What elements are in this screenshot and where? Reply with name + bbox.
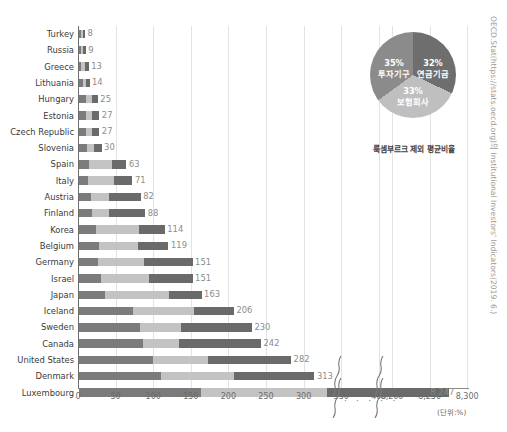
bar-segment: [83, 46, 85, 54]
bar-value-label: 63: [129, 160, 140, 169]
x-axis-tick-label: 200: [221, 392, 236, 401]
bar-segment: [83, 30, 85, 38]
bar-segment: [161, 372, 233, 380]
bar-value-label: 27: [102, 111, 113, 120]
stacked-bar: [79, 193, 141, 201]
bar-segment: [99, 242, 138, 250]
bar-value-label: 25: [100, 95, 111, 104]
stacked-bar: [79, 225, 165, 233]
bar-row: Canada242: [0, 336, 507, 352]
bar-value-label: 27: [102, 127, 113, 136]
pie-slice-pct-2: 32%: [407, 58, 459, 69]
category-label: Korea: [0, 222, 74, 238]
bar-value-label: 13: [91, 62, 102, 71]
x-axis-tick-label: 0: [75, 392, 80, 401]
x-axis-tick-label: 100: [146, 392, 161, 401]
bar-segment: [79, 209, 92, 217]
bar-segment: [79, 356, 153, 364]
bar-segment: [79, 176, 88, 184]
bar-row: Japan163: [0, 287, 507, 303]
pie-slice-name-1: 보험회사: [387, 97, 439, 108]
x-axis-tick-label: 300: [296, 392, 311, 401]
category-label: Slovenia: [0, 140, 74, 156]
bar-segment: [79, 291, 105, 299]
bar-segment: [92, 111, 99, 119]
bar-segment: [92, 209, 109, 217]
unit-label: (단위:%): [437, 406, 466, 417]
category-label: Lithuania: [0, 75, 74, 91]
category-label: Luxembourg: [0, 385, 74, 401]
bar-row: Denmark313: [0, 368, 507, 384]
bar-segment: [140, 323, 182, 331]
bar-value-label: 82: [143, 192, 154, 201]
stacked-bar: [79, 95, 98, 103]
bar-segment: [79, 274, 101, 282]
stacked-bar: [79, 339, 261, 347]
bar-segment: [98, 258, 143, 266]
bar-segment: [79, 372, 161, 380]
bar-segment: [96, 225, 139, 233]
bar-segment: [79, 193, 91, 201]
bar-value-label: 30: [104, 143, 115, 152]
bar-segment: [85, 62, 89, 70]
bar-segment: [149, 274, 192, 282]
axis-break-marker-left-lower: [330, 378, 346, 412]
bar-row: Israel151: [0, 271, 507, 287]
bar-segment: [143, 339, 179, 347]
bar-segment: [234, 372, 315, 380]
bar-row: Korea114: [0, 222, 507, 238]
pie-slice-name-2: 연금기금: [407, 69, 459, 80]
bar-value-label: 230: [254, 323, 270, 332]
x-axis-tick-label: 250: [258, 392, 273, 401]
bar-segment: [169, 291, 201, 299]
x-axis-tick-label: 8,300: [456, 392, 479, 401]
bar-row: Spain63: [0, 156, 507, 172]
stacked-bar: [79, 209, 145, 217]
stacked-bar: [79, 111, 99, 119]
category-label: Sweden: [0, 319, 74, 335]
bar-value-label: 151: [195, 274, 211, 283]
bar-value-label: 119: [171, 241, 187, 250]
bar-segment: [79, 307, 133, 315]
category-label: Spain: [0, 156, 74, 172]
bar-segment: [79, 323, 140, 331]
category-label: Japan: [0, 287, 74, 303]
bar-segment: [79, 242, 99, 250]
stacked-bar: [79, 160, 126, 168]
bar-segment: [79, 160, 89, 168]
pie-slice-label-1: 33% 보험회사: [387, 86, 439, 107]
bar-segment: [144, 258, 193, 266]
stacked-bar: [79, 323, 252, 331]
stacked-bar: [79, 128, 99, 136]
bar-segment: [79, 111, 86, 119]
bar-row: United States282: [0, 352, 507, 368]
bar-value-label: 242: [263, 339, 279, 348]
stacked-bar: [79, 274, 193, 282]
bar-row: Austria82: [0, 189, 507, 205]
pie-chart-inset: 35% 투자기구 32% 연금기금 33% 보험회사: [370, 32, 456, 118]
bar-value-label: 8: [88, 29, 93, 38]
bar-segment: [91, 193, 109, 201]
category-label: Germany: [0, 254, 74, 270]
pie-slice-label-2: 32% 연금기금: [407, 58, 459, 79]
bar-segment: [109, 193, 141, 201]
bar-segment: [109, 209, 145, 217]
stacked-bar: [79, 258, 193, 266]
x-axis-tick-label: 150: [183, 392, 198, 401]
category-label: Turkey: [0, 26, 74, 42]
bar-segment: [79, 144, 87, 152]
category-label: Hungary: [0, 91, 74, 107]
bar-row: Italy71: [0, 173, 507, 189]
stacked-bar: [79, 30, 85, 38]
bar-row: Iceland206: [0, 303, 507, 319]
axis-break-marker-right-lower: [372, 378, 388, 412]
bar-value-label: 88: [148, 209, 159, 218]
bar-segment: [114, 176, 132, 184]
bar-row: Germany151: [0, 254, 507, 270]
bar-segment: [112, 160, 126, 168]
category-label: Czech Republic: [0, 124, 74, 140]
bar-segment: [101, 274, 150, 282]
pie-chart-caption: 룩셈부르크 제외 평균비율: [344, 143, 484, 154]
stacked-bar: [79, 356, 291, 364]
category-label: Estonia: [0, 108, 74, 124]
